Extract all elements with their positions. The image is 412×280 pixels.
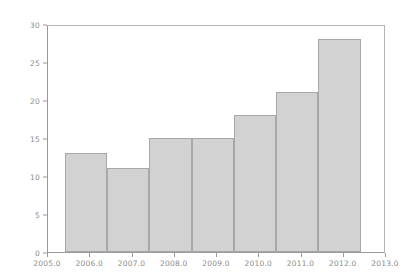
- x-axis-tick-label: 2006.0: [76, 259, 103, 268]
- y-axis-tick-label: 0: [35, 249, 40, 258]
- x-axis-tick-mark: [47, 253, 48, 257]
- x-axis-tick-mark: [385, 253, 386, 257]
- x-axis-tick-mark: [89, 253, 90, 257]
- y-axis-tick-label: 10: [30, 173, 40, 182]
- bar-chart-figure: 051015202530 2005.02006.02007.02008.0200…: [0, 0, 412, 280]
- bar: [318, 39, 360, 252]
- x-axis-tick-mark: [132, 253, 133, 257]
- bar: [276, 92, 318, 252]
- x-axis-tick-mark: [301, 253, 302, 257]
- x-axis-tick-label: 2011.0: [287, 259, 314, 268]
- x-axis-tick-label: 2007.0: [118, 259, 145, 268]
- x-axis-tick-label: 2013.0: [371, 259, 398, 268]
- x-axis-tick-label: 2012.0: [329, 259, 356, 268]
- y-axis-tick-label: 30: [30, 21, 40, 30]
- x-axis-tick-label: 2010.0: [245, 259, 272, 268]
- x-axis-tick-mark: [343, 253, 344, 257]
- bars-layer: [48, 26, 384, 252]
- bar: [65, 153, 107, 252]
- x-axis-tick-mark: [258, 253, 259, 257]
- x-axis: 2005.02006.02007.02008.02009.02010.02011…: [47, 253, 385, 279]
- y-axis-tick-label: 20: [30, 97, 40, 106]
- y-axis-tick-label: 5: [35, 211, 40, 220]
- x-axis-tick-mark: [174, 253, 175, 257]
- plot-area: [47, 25, 385, 253]
- x-axis-tick-label: 2005.0: [33, 259, 60, 268]
- y-axis: 051015202530: [0, 25, 47, 253]
- y-axis-tick-label: 15: [30, 135, 40, 144]
- bar: [149, 138, 191, 252]
- x-axis-tick-mark: [216, 253, 217, 257]
- x-axis-tick-label: 2009.0: [202, 259, 229, 268]
- y-axis-tick-label: 25: [30, 59, 40, 68]
- bar: [192, 138, 234, 252]
- bar: [107, 168, 149, 252]
- x-axis-tick-label: 2008.0: [160, 259, 187, 268]
- bar: [234, 115, 276, 252]
